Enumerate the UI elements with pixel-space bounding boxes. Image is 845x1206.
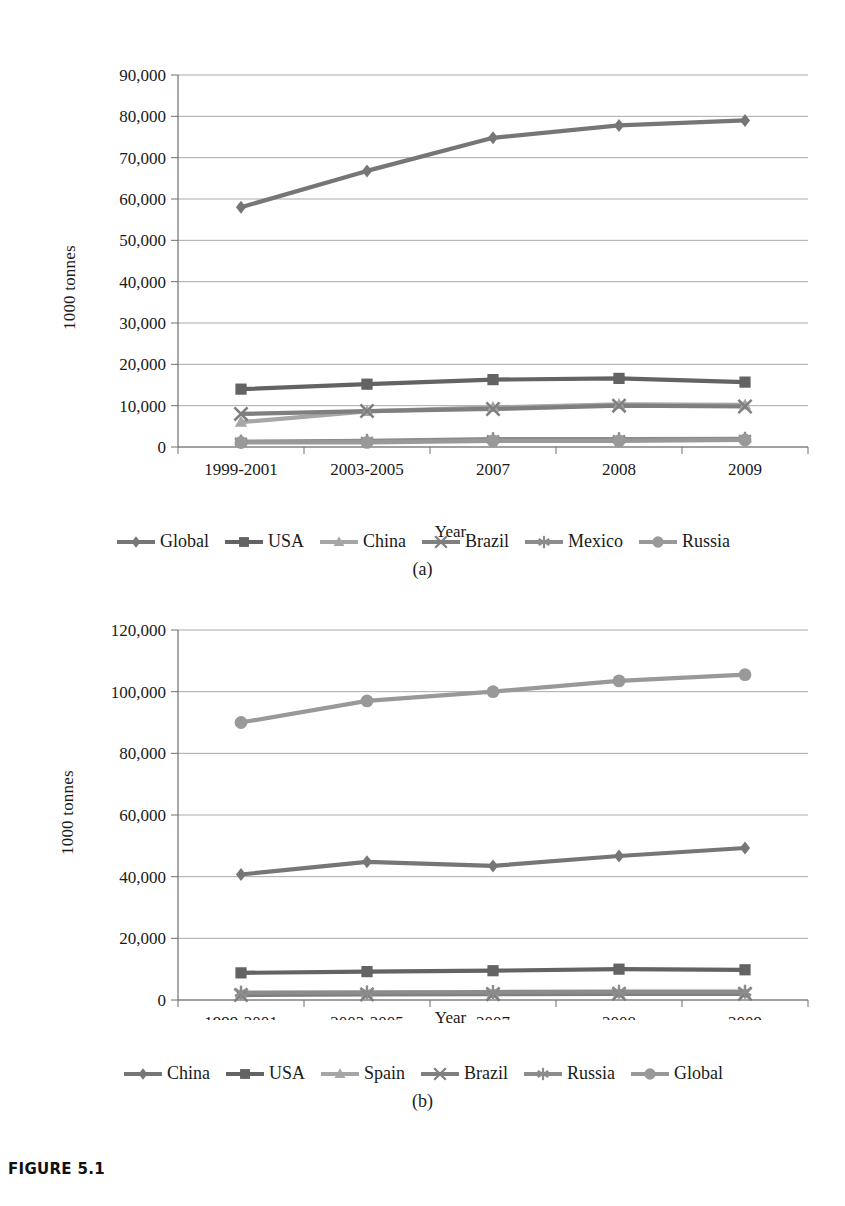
legend-item-global[interactable]: Global [115, 531, 209, 552]
y-axis-tick-label: 30,000 [119, 314, 166, 333]
data-point-russia [235, 436, 248, 449]
legend-swatch-cross-icon [419, 1064, 461, 1084]
legend-swatch-diamond-icon [122, 1064, 164, 1084]
data-point-global [362, 164, 372, 177]
legend-item-russia[interactable]: Russia [522, 1063, 615, 1084]
data-point-usa [361, 379, 372, 390]
chart-a-legend: GlobalUSAChinaBrazilMexicoRussia [0, 531, 845, 552]
marker-circle [644, 1068, 655, 1079]
chart-a-block: 010,00020,00030,00040,00050,00060,00070,… [0, 40, 845, 600]
legend-item-global[interactable]: Global [629, 1063, 723, 1084]
legend-swatch-circle-icon [637, 532, 679, 552]
data-point-usa [487, 374, 498, 385]
marker-square [239, 537, 249, 547]
legend-swatch-circle-icon [629, 1064, 671, 1084]
legend-swatch-asterisk-icon [522, 1064, 564, 1084]
chart-b-subcaption: (b) [0, 1091, 845, 1112]
chart-a-subcaption: (a) [0, 559, 845, 580]
legend-label: Mexico [567, 531, 623, 552]
x-axis-category-label: 1999-2001 [204, 460, 278, 479]
y-axis-tick-label: 50,000 [119, 231, 166, 250]
marker-diamond [139, 1068, 148, 1079]
legend-label: China [166, 1063, 210, 1084]
series-line-global [241, 675, 745, 723]
legend-item-brazil[interactable]: Brazil [419, 1063, 508, 1084]
y-axis-tick-label: 20,000 [119, 929, 166, 948]
legend-item-usa[interactable]: USA [223, 531, 304, 552]
data-point-global [488, 131, 498, 144]
legend-swatch-triangle-icon [319, 1064, 361, 1084]
data-point-global [487, 685, 500, 698]
y-axis-tick-label: 70,000 [119, 149, 166, 168]
legend-label: Russia [566, 1063, 615, 1084]
data-point-usa [361, 966, 372, 977]
data-point-china [362, 855, 372, 868]
data-point-global [613, 674, 626, 687]
legend-swatch-square-icon [224, 1064, 266, 1084]
legend-swatch-cross-icon [420, 532, 462, 552]
data-point-russia [487, 434, 500, 447]
chart-b-plot-area: 020,00040,00060,00080,000100,000120,0001… [0, 600, 845, 1020]
legend-label: USA [267, 531, 304, 552]
x-axis-category-label: 2009 [728, 460, 762, 479]
legend-label: Russia [681, 531, 730, 552]
y-axis-tick-label: 0 [158, 438, 167, 457]
y-axis-tick-label: 80,000 [119, 107, 166, 126]
legend-label: USA [268, 1063, 305, 1084]
chart-b-x-axis-label: Year [28, 1008, 845, 1028]
data-point-global [614, 119, 624, 132]
data-point-russia [739, 434, 752, 447]
legend-label: Brazil [463, 1063, 508, 1084]
x-axis-category-label: 2008 [602, 460, 636, 479]
legend-label: Global [159, 531, 209, 552]
data-point-russia [613, 434, 626, 447]
data-point-global [235, 716, 248, 729]
chart-b-svg: 020,00040,00060,00080,000100,000120,0001… [0, 600, 845, 1020]
x-axis-category-label: 2003-2005 [330, 460, 404, 479]
data-point-usa [739, 964, 750, 975]
legend-item-mexico[interactable]: Mexico [523, 531, 623, 552]
data-point-global [361, 695, 374, 708]
legend-item-russia[interactable]: Russia [637, 531, 730, 552]
chart-a-svg: 010,00020,00030,00040,00050,00060,00070,… [0, 40, 845, 510]
legend-item-brazil[interactable]: Brazil [420, 531, 509, 552]
marker-square [240, 1069, 250, 1079]
chart-a-y-axis-label: 1000 tonnes [60, 245, 80, 330]
legend-item-usa[interactable]: USA [224, 1063, 305, 1084]
y-axis-tick-label: 40,000 [119, 273, 166, 292]
legend-label: Brazil [464, 531, 509, 552]
y-axis-tick-label: 120,000 [111, 621, 166, 640]
data-point-usa [487, 965, 498, 976]
marker-circle [652, 536, 663, 547]
data-point-china [740, 841, 750, 854]
chart-b-y-axis-label: 1000 tonnes [58, 770, 78, 855]
figure-page: 010,00020,00030,00040,00050,00060,00070,… [0, 0, 845, 1206]
legend-item-china[interactable]: China [122, 1063, 210, 1084]
chart-a-plot-area: 010,00020,00030,00040,00050,00060,00070,… [0, 40, 845, 510]
y-axis-tick-label: 90,000 [119, 66, 166, 85]
legend-label: China [362, 531, 406, 552]
y-axis-tick-label: 100,000 [111, 683, 166, 702]
legend-item-spain[interactable]: Spain [319, 1063, 405, 1084]
legend-label: Global [673, 1063, 723, 1084]
data-point-china [236, 868, 246, 881]
legend-swatch-asterisk-icon [523, 532, 565, 552]
y-axis-tick-label: 80,000 [119, 744, 166, 763]
data-point-global [236, 201, 246, 214]
legend-item-china[interactable]: China [318, 531, 406, 552]
y-axis-tick-label: 60,000 [119, 806, 166, 825]
legend-swatch-square-icon [223, 532, 265, 552]
y-axis-tick-label: 60,000 [119, 190, 166, 209]
chart-b-block: 020,00040,00060,00080,000100,000120,0001… [0, 600, 845, 1140]
y-axis-tick-label: 20,000 [119, 355, 166, 374]
data-point-china [488, 859, 498, 872]
legend-swatch-diamond-icon [115, 532, 157, 552]
data-point-global [739, 668, 752, 681]
data-point-usa [613, 964, 624, 975]
data-point-usa [613, 373, 624, 384]
data-point-china [614, 850, 624, 863]
legend-label: Spain [363, 1063, 405, 1084]
y-axis-tick-label: 40,000 [119, 868, 166, 887]
chart-b-legend: ChinaUSASpainBrazilRussiaGlobal [0, 1063, 845, 1084]
x-axis-category-label: 2007 [476, 460, 511, 479]
